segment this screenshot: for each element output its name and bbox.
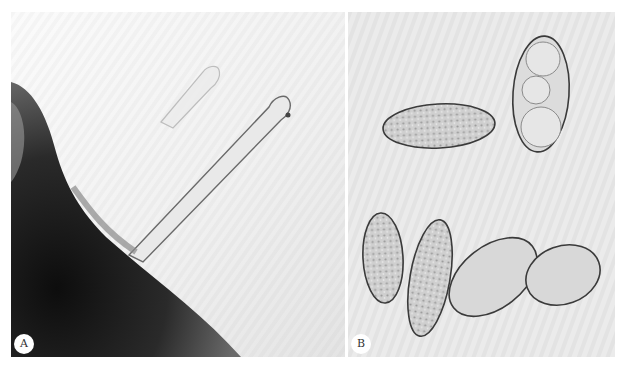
panel-label-a: A [14, 334, 34, 354]
panel-label-b: B [351, 334, 371, 354]
micrograph-a [11, 12, 345, 357]
micrograph-b [348, 12, 615, 357]
figure-panel-b: B [348, 12, 615, 357]
figure-panel-a: A [11, 12, 345, 357]
